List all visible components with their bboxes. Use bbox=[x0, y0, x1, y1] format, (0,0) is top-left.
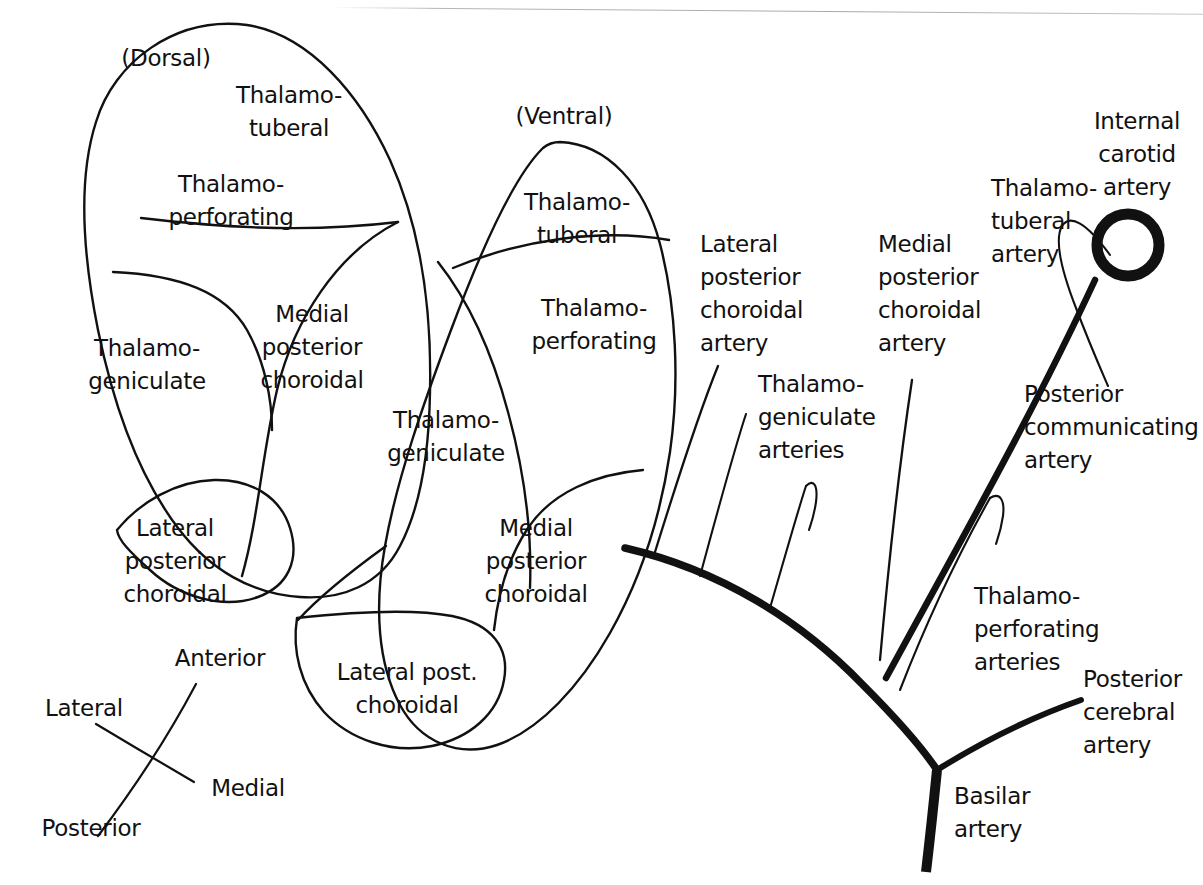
orientation-label-lateral: Lateral bbox=[32, 692, 136, 725]
dorsal-territory-thalamogeniculate: Thalamo- geniculate bbox=[62, 332, 232, 398]
dorsal-territory-thalamotuberal: Thalamo- tuberal bbox=[218, 79, 360, 145]
posterior-cerebral-artery-path bbox=[625, 548, 937, 770]
internal-carotid-artery-ring bbox=[1097, 214, 1159, 276]
vessel-label-lateral-posterior-choroidal-artery: Lateral posterior choroidal artery bbox=[700, 228, 850, 360]
panel-caption-ventral: (Ventral) bbox=[500, 100, 628, 133]
orientation-axis-lateral-medial bbox=[96, 724, 194, 782]
vessel-label-posterior-communicating-artery: Posterior communicating artery bbox=[1024, 378, 1192, 477]
panel-caption-dorsal: (Dorsal) bbox=[106, 42, 226, 75]
dorsal-territory-lateral-posterior-choroidal: Lateral posterior choroidal bbox=[110, 512, 240, 611]
thalamogeniculate-artery-branch-3 bbox=[700, 414, 746, 576]
vessel-label-internal-carotid-artery: Internal carotid artery bbox=[1084, 105, 1190, 204]
orientation-label-posterior: Posterior bbox=[28, 812, 154, 845]
lateral-posterior-choroidal-artery-path bbox=[655, 366, 718, 552]
thalamoperforating-artery-branch-2 bbox=[990, 496, 1003, 544]
ventral-territory-thalamogeniculate: Thalamo- geniculate bbox=[362, 404, 530, 470]
ventral-territory-thalamoperforating: Thalamo- perforating bbox=[512, 292, 676, 358]
thalamogeniculate-artery-branch-1 bbox=[770, 486, 806, 608]
dorsal-territory-medial-posterior-choroidal: Medial posterior choroidal bbox=[246, 298, 378, 397]
orientation-label-anterior: Anterior bbox=[160, 642, 280, 675]
vessel-label-basilar-artery: Basilar artery bbox=[954, 780, 1064, 846]
dorsal-territory-thalamoperforating: Thalamo- perforating bbox=[142, 168, 320, 234]
posterior-cerebral-artery-distal bbox=[937, 700, 1081, 770]
vessel-label-posterior-cerebral-artery: Posterior cerebral artery bbox=[1083, 663, 1203, 762]
thalamogeniculate-artery-branch-2 bbox=[806, 483, 817, 530]
ventral-territory-lateral-post-choroidal: Lateral post. choroidal bbox=[318, 656, 496, 722]
vessel-label-thalamogeniculate-arteries: Thalamo- geniculate arteries bbox=[758, 368, 908, 467]
orientation-label-medial: Medial bbox=[198, 772, 298, 805]
basilar-artery-path bbox=[926, 770, 937, 872]
ventral-lateral-sweep bbox=[298, 546, 386, 620]
ventral-territory-thalamotuberal: Thalamo- tuberal bbox=[506, 186, 648, 252]
dorsal-divider-medial-choroidal bbox=[242, 222, 398, 576]
diagram-canvas: (Dorsal) (Ventral) Thalamo- tuberal Thal… bbox=[0, 0, 1203, 885]
ventral-territory-medial-posterior-choroidal: Medial posterior choroidal bbox=[470, 512, 602, 611]
